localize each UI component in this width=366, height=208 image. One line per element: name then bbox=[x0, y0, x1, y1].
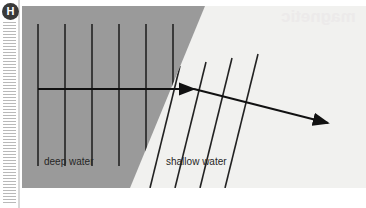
h-badge-icon: H bbox=[2, 3, 19, 20]
page-ruler-strip bbox=[0, 0, 22, 208]
ghost-showthrough-text: magnetic bbox=[281, 7, 356, 27]
refraction-figure: magnetic bbox=[0, 0, 366, 208]
ruler-tick-marks bbox=[3, 22, 16, 204]
shallow-water-label: shallow water bbox=[166, 156, 227, 167]
deep-water-label: deep water bbox=[44, 156, 93, 167]
ruler-edge-line bbox=[18, 0, 20, 208]
